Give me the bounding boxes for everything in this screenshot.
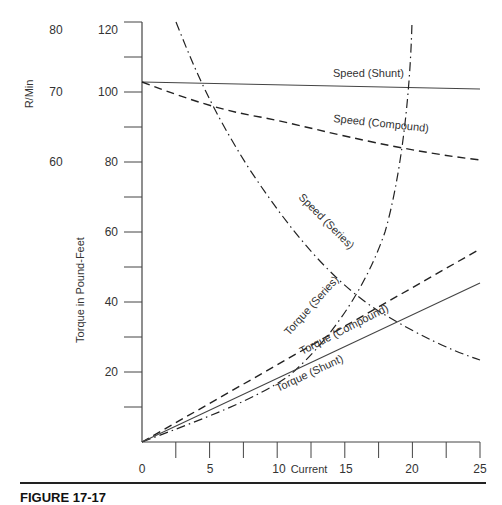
x-tick-label: 0 xyxy=(139,462,146,476)
x-axis-title: Current xyxy=(291,463,328,475)
y-axis-title: Torque in Pound-Feet xyxy=(74,237,86,343)
y-tick-label: 120 xyxy=(98,23,118,37)
figure-caption: FIGURE 17-17 xyxy=(20,490,106,505)
y-tick-label: 20 xyxy=(105,365,119,379)
speed-shunt-curve xyxy=(142,82,480,89)
speed-compound-label: Speed (Compound) xyxy=(333,112,430,134)
y-tick-label: 60 xyxy=(105,225,119,239)
y2-tick-label: 70 xyxy=(49,85,63,99)
speed-series-label: Speed (Series) xyxy=(297,191,357,251)
y-tick-label: 100 xyxy=(98,85,118,99)
y2-tick-label: 60 xyxy=(49,155,63,169)
x-tick-label: 20 xyxy=(405,462,419,476)
y-tick-label: 40 xyxy=(105,295,119,309)
y2-tick-label: 80 xyxy=(49,23,63,37)
speed-shunt-label: Speed (Shunt) xyxy=(333,67,404,79)
y-tick-label: 80 xyxy=(105,155,119,169)
y2-axis-title: R/Min xyxy=(23,80,35,109)
x-tick-label: 25 xyxy=(473,462,487,476)
torque-shunt-label: Torque (Shunt) xyxy=(274,352,345,394)
speed-compound-curve xyxy=(142,82,480,160)
x-tick-label: 15 xyxy=(339,462,353,476)
x-axis-ticks xyxy=(176,442,480,458)
x-tick-label: 10 xyxy=(272,462,286,476)
x-tick-label: 5 xyxy=(207,462,214,476)
y-axis-ticks xyxy=(124,22,142,407)
speed-series-curve xyxy=(176,22,480,360)
caption-divider xyxy=(20,482,486,484)
